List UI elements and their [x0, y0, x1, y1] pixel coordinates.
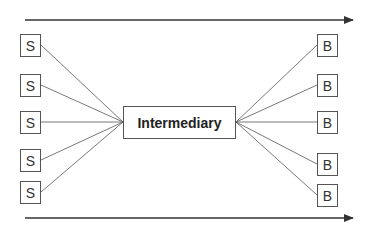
buyer-connectors: [236, 45, 317, 195]
buyer-node-2: B: [317, 74, 338, 97]
seller-node-2: S: [20, 74, 41, 97]
seller-node-1: S: [20, 34, 41, 57]
buyer-node-4: B: [317, 153, 338, 176]
buyer-node-3: B: [317, 111, 338, 134]
seller-node-3: S: [20, 111, 41, 134]
seller-node-5: S: [20, 181, 41, 204]
buyer-node-1: B: [317, 34, 338, 57]
intermediary-node: Intermediary: [123, 106, 236, 139]
buyer-node-5: B: [317, 184, 338, 207]
seller-node-4: S: [20, 149, 41, 172]
seller-connectors: [41, 45, 123, 192]
